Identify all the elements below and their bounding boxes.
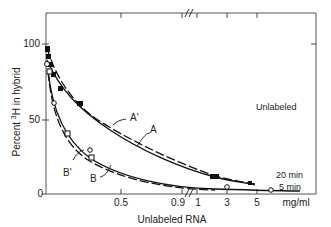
curve-A: [47, 60, 255, 185]
x-axis-title: Unlabeled RNA: [138, 214, 207, 225]
xtick-0.5: 0.5: [114, 197, 128, 208]
label-A-prime: A': [130, 112, 139, 123]
xtick-0.9: 0.9: [171, 197, 185, 208]
curve-label-arrows: [73, 119, 150, 177]
xtick-5: 5: [254, 197, 260, 208]
ytick-50: 50: [29, 114, 41, 125]
markers-B: [45, 62, 274, 193]
annotation-20-min: 20 min: [276, 170, 303, 180]
annotation-5-min: 5 min: [279, 182, 301, 192]
ytick-100: 100: [23, 38, 40, 49]
y-axis-title: Percent 3H in hybrid: [10, 68, 22, 157]
label-A: A: [150, 124, 157, 135]
x-unit: mg/ml: [282, 197, 309, 208]
xtick-3: 3: [224, 197, 230, 208]
curve-B: [48, 70, 300, 191]
x-ticks: [121, 13, 257, 194]
axis-break-bottom: [185, 189, 193, 197]
chart: 100 50 0 0.5 0.9 1 3 5 mg/ml Unlabeled R…: [0, 0, 331, 227]
y-ticks: [42, 44, 316, 194]
label-B-prime: B': [63, 167, 72, 178]
label-B: B: [90, 173, 97, 184]
markers-A-prime: [45, 46, 252, 185]
annotation-unlabeled: Unlabeled: [256, 102, 297, 112]
curve-A-prime: [47, 48, 255, 184]
xtick-1: 1: [195, 197, 201, 208]
curve-B-prime: [48, 72, 215, 190]
ytick-0: 0: [37, 188, 43, 199]
